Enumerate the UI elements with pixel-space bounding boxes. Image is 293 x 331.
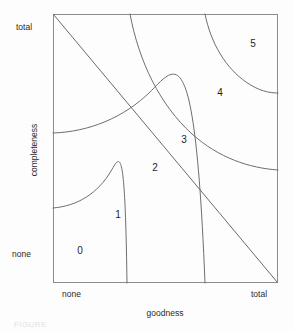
region-label-5: 5 (250, 38, 256, 49)
region-label-2: 2 (152, 162, 158, 173)
x-axis-title: goodness (147, 308, 184, 318)
region-label-0: 0 (77, 245, 83, 256)
divider-4-5 (205, 14, 278, 93)
y-axis-tick-low: none (12, 249, 31, 259)
y-axis-tick-high: total (16, 22, 32, 32)
divider-3-4 (130, 14, 278, 170)
region-label-3: 3 (181, 134, 187, 145)
figure-caption-remnant: FIGURE (14, 321, 279, 328)
y-axis-title: completeness (29, 124, 39, 176)
region-diagram: 0 1 2 3 4 5 total none completeness none… (0, 0, 293, 331)
x-axis-tick-low: none (62, 289, 81, 299)
x-axis-tick-high: total (251, 289, 267, 299)
region-label-1: 1 (115, 209, 121, 220)
region-label-4: 4 (217, 87, 223, 98)
figure-root: 0 1 2 3 4 5 total none completeness none… (0, 0, 293, 331)
divider-0-1 (53, 162, 127, 283)
main-diagonal (54, 15, 278, 283)
